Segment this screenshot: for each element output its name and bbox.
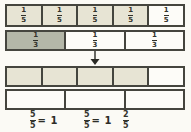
fraction-model-figure: 15 15 15 15 15 13 13 13 (0, 0, 191, 132)
fraction-label: 55 (30, 111, 36, 130)
fraction-label: 13 (152, 32, 157, 49)
fifteenths-bar-light (5, 66, 185, 87)
fraction-cell: 15 (114, 6, 150, 25)
subdivided-cell (7, 91, 66, 108)
subdivided-cell (78, 68, 114, 85)
fraction-cell: 13 (126, 32, 183, 49)
subdivided-cell (149, 68, 183, 85)
fifteenths-bar-dark (5, 89, 185, 110)
fraction-cell: 15 (7, 6, 43, 25)
subdivided-cell (43, 68, 79, 85)
subdivided-cell (126, 91, 183, 108)
fraction-label: 15 (21, 7, 26, 24)
result-label: 55 = 1 (84, 111, 112, 130)
thirds-bar: 13 13 13 (5, 30, 185, 51)
fraction-label: 25 (123, 111, 129, 130)
down-arrow-icon (89, 51, 101, 65)
fraction-cell: 13 (66, 32, 125, 49)
fraction-cell: 15 (149, 6, 183, 25)
fraction-label: 15 (57, 7, 62, 24)
fraction-label: 15 (128, 7, 133, 24)
result-label: 25 (123, 111, 131, 130)
equals-one-text: = 1 (38, 115, 58, 126)
fifths-bar: 15 15 15 15 15 (5, 4, 185, 27)
fraction-label: 13 (93, 32, 98, 49)
subdivided-cell (114, 68, 150, 85)
fraction-cell: 13 (7, 32, 66, 49)
result-label: 55 = 1 (30, 111, 58, 130)
fraction-cell: 15 (43, 6, 79, 25)
fraction-cell: 15 (78, 6, 114, 25)
fraction-label: 55 (84, 111, 90, 130)
fraction-label: 13 (33, 32, 38, 49)
fraction-label: 15 (93, 7, 98, 24)
fraction-label: 15 (164, 7, 169, 24)
subdivided-cell (7, 68, 43, 85)
equals-one-text: = 1 (92, 115, 112, 126)
subdivided-cell (66, 91, 125, 108)
